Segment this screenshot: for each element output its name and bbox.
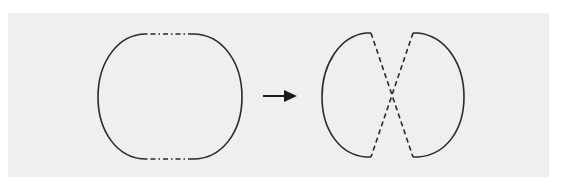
before-left-arc [98, 34, 146, 159]
arrow-icon [263, 90, 297, 102]
before-shape [98, 34, 242, 159]
after-right-arc [413, 33, 464, 157]
transformation-diagram [0, 0, 561, 182]
before-right-arc [193, 34, 242, 159]
after-left-arc [322, 33, 371, 157]
after-shape [322, 33, 464, 157]
